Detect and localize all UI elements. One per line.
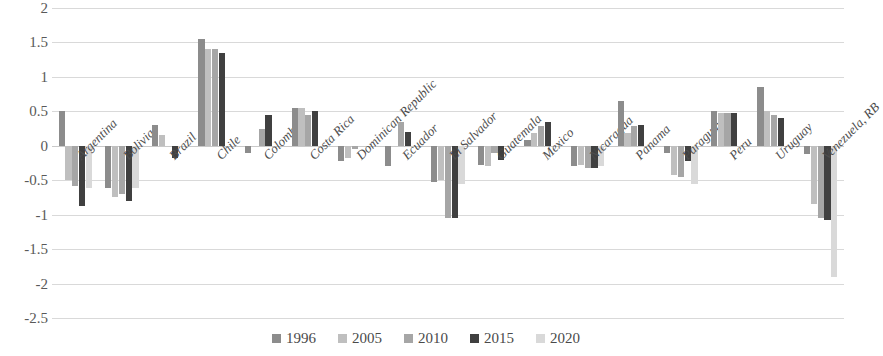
bar-2005 bbox=[159, 135, 165, 146]
bar-group: Costa Rica bbox=[285, 8, 332, 318]
bar-1996 bbox=[105, 146, 111, 189]
y-axis-tick-label: -2.5 bbox=[4, 311, 48, 326]
bar-2010 bbox=[305, 115, 311, 146]
y-axis-tick-label: 1.5 bbox=[4, 35, 48, 50]
bar-2010 bbox=[771, 115, 777, 146]
bar-group: Brazil bbox=[145, 8, 192, 318]
x-axis-category-label: Venezuela, RB bbox=[819, 99, 883, 163]
y-axis-tick-label: 2 bbox=[4, 1, 48, 16]
bar-1996 bbox=[804, 146, 810, 154]
bar-2005 bbox=[624, 133, 630, 145]
bar-2005 bbox=[531, 133, 537, 145]
bar-1996 bbox=[431, 146, 437, 182]
bar-2010 bbox=[398, 122, 404, 146]
legend-label: 2005 bbox=[352, 330, 382, 347]
y-axis-tick-label: -0.5 bbox=[4, 173, 48, 188]
bar-2005 bbox=[718, 113, 724, 146]
bar-2005 bbox=[438, 146, 444, 180]
legend-swatch-icon bbox=[404, 334, 413, 343]
bar-1996 bbox=[152, 125, 158, 146]
bar-2015 bbox=[219, 53, 225, 146]
y-axis-tick-label: 1 bbox=[4, 69, 48, 84]
legend-label: 2015 bbox=[484, 330, 514, 347]
bar-2005 bbox=[671, 146, 677, 175]
bar-2005 bbox=[205, 49, 211, 145]
bar-1996 bbox=[524, 140, 530, 146]
bar-group: Paraguay bbox=[658, 8, 705, 318]
bar-1996 bbox=[478, 146, 484, 165]
legend-label: 2020 bbox=[550, 330, 580, 347]
bar-group: Colombia bbox=[238, 8, 285, 318]
bar-group: Dominican Republic bbox=[332, 8, 379, 318]
bar-group: Chile bbox=[192, 8, 239, 318]
legend-item[interactable]: 1996 bbox=[272, 330, 316, 347]
bar-2005 bbox=[764, 111, 770, 145]
bar-2005 bbox=[485, 146, 491, 167]
bar-1996 bbox=[198, 39, 204, 146]
bar-2010 bbox=[724, 113, 730, 146]
y-axis-tick-label: -1.5 bbox=[4, 242, 48, 257]
bar-2010 bbox=[631, 126, 637, 145]
bar-group: Venezuela, RB bbox=[797, 8, 844, 318]
bar-2010 bbox=[538, 126, 544, 145]
bar-2010 bbox=[212, 49, 218, 145]
legend-item[interactable]: 2020 bbox=[536, 330, 580, 347]
bar-1996 bbox=[338, 146, 344, 161]
bar-2005 bbox=[65, 146, 71, 180]
bar-group: Uruguay bbox=[751, 8, 798, 318]
bar-2005 bbox=[811, 146, 817, 205]
bar-group: Mexico bbox=[518, 8, 565, 318]
bar-1996 bbox=[59, 111, 65, 145]
bar-2005 bbox=[112, 146, 118, 198]
y-axis: 21.510.50-0.5-1-1.5-2-2.5 bbox=[0, 8, 48, 318]
bar-1996 bbox=[618, 101, 624, 146]
bar-1996 bbox=[711, 111, 717, 145]
bar-groups: ArgentinaBoliviaBrazilChileColombiaCosta… bbox=[52, 8, 844, 318]
legend-swatch-icon bbox=[338, 334, 347, 343]
bar-2005 bbox=[298, 108, 304, 146]
bar-group: Ecuador bbox=[378, 8, 425, 318]
legend-swatch-icon bbox=[536, 334, 545, 343]
bar-group: El Salvador bbox=[425, 8, 472, 318]
bar-2010 bbox=[259, 129, 265, 146]
bar-1996 bbox=[664, 146, 670, 153]
legend-swatch-icon bbox=[272, 334, 281, 343]
bar-group: Argentina bbox=[52, 8, 99, 318]
legend-item[interactable]: 2010 bbox=[404, 330, 448, 347]
bar-1996 bbox=[292, 108, 298, 146]
legend-label: 2010 bbox=[418, 330, 448, 347]
bar-group: Nicaragua bbox=[564, 8, 611, 318]
gridline bbox=[52, 318, 844, 319]
bar-group: Peru bbox=[704, 8, 751, 318]
y-axis-tick-label: 0 bbox=[4, 138, 48, 153]
bar-2005 bbox=[345, 146, 351, 158]
bar-1996 bbox=[571, 146, 577, 167]
bar-1996 bbox=[757, 87, 763, 146]
y-axis-tick-label: -2 bbox=[4, 276, 48, 291]
bar-2005 bbox=[578, 146, 584, 165]
legend-item[interactable]: 2005 bbox=[338, 330, 382, 347]
legend-swatch-icon bbox=[470, 334, 479, 343]
y-axis-tick-label: 0.5 bbox=[4, 104, 48, 119]
bar-group: Bolivia bbox=[99, 8, 146, 318]
legend-label: 1996 bbox=[286, 330, 316, 347]
legend-item[interactable]: 2015 bbox=[470, 330, 514, 347]
bar-group: Panama bbox=[611, 8, 658, 318]
bar-1996 bbox=[385, 146, 391, 167]
chart-legend: 19962005201020152020 bbox=[0, 330, 852, 347]
bar-1996 bbox=[245, 146, 251, 153]
bar-group: Guatemala bbox=[471, 8, 518, 318]
y-axis-tick-label: -1 bbox=[4, 207, 48, 222]
bar-2020 bbox=[831, 146, 837, 277]
